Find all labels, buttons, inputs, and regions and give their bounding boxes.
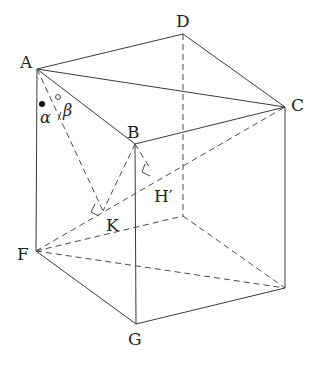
edge-AB [37, 69, 135, 144]
cube-diagram: A D C B F G K H′ α β [0, 0, 310, 367]
line-AK [37, 69, 103, 211]
line-BK [103, 144, 135, 211]
label-beta: β [62, 101, 72, 120]
filled-dot-marker [39, 101, 45, 107]
label-G: G [128, 329, 142, 349]
edge-AC [37, 69, 285, 107]
edge-hidden-bottom [183, 216, 285, 288]
label-A: A [19, 52, 33, 72]
label-D: D [176, 11, 190, 31]
diag-F-bottom [36, 251, 285, 288]
edge-BC [135, 107, 285, 144]
open-dot-marker [56, 95, 61, 100]
edge-BG [135, 144, 136, 324]
label-F: F [17, 244, 29, 264]
label-B: B [127, 122, 140, 142]
hidden-edges [36, 34, 285, 288]
edge-FG [36, 251, 136, 324]
line-BH [135, 144, 151, 170]
label-K: K [106, 215, 119, 235]
label-C: C [291, 95, 304, 115]
edge-G-bottom [136, 288, 285, 324]
right-angle-K [91, 204, 99, 216]
label-alpha: α [40, 108, 51, 127]
label-H-prime: H′ [154, 186, 173, 206]
edge-AD [37, 34, 183, 69]
diag-FC [36, 107, 285, 251]
edge-DC [183, 34, 285, 107]
edge-AF [36, 69, 37, 251]
